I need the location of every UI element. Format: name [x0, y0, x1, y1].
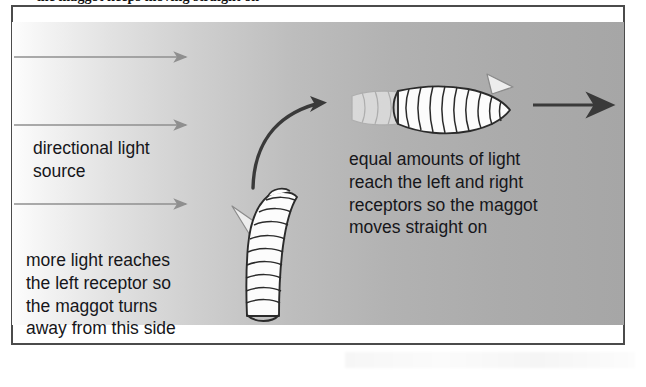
label-equal-light-moves-straight: equal amounts of light reach the left an… — [349, 148, 538, 239]
label-more-light-left-receptor: more light reaches the left receptor so … — [26, 249, 176, 340]
scan-speckle — [345, 352, 635, 368]
label-directional-light-source: directional light source — [33, 137, 150, 183]
